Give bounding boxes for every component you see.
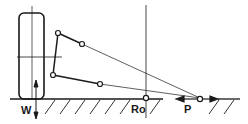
suspension-diagram: W Ro P	[0, 0, 248, 124]
upper-inner-pivot	[80, 42, 85, 47]
lower-control-arm	[53, 75, 100, 84]
lower-inner-pivot	[98, 82, 103, 87]
upper-ball-joint	[56, 31, 61, 36]
instant-center-label: P	[184, 103, 191, 115]
instant-center-point	[197, 96, 202, 101]
wheel-load-label: W	[21, 104, 32, 116]
roll-center-label: Ro	[131, 103, 146, 115]
lower-ball-joint	[51, 73, 56, 78]
upright	[53, 33, 58, 75]
upper-control-arm	[58, 33, 82, 44]
roll-center-point	[143, 95, 148, 100]
wheel	[19, 13, 44, 99]
pivot-joints	[51, 31, 103, 87]
